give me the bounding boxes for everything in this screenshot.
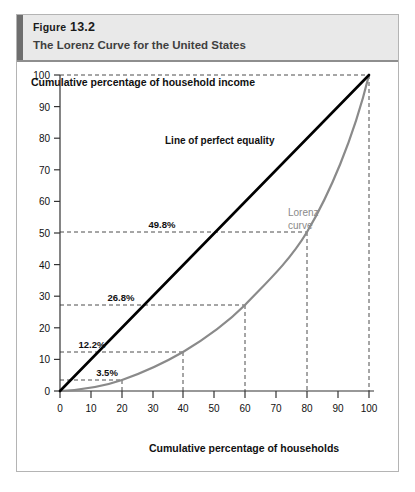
annotation-label-268: 26.8% (108, 292, 135, 303)
x-tick-label: 60 (239, 403, 251, 414)
figure-number-prefix: Figure (33, 21, 66, 33)
x-tick-label: 100 (361, 403, 378, 414)
x-axis-tick-labels: 0 10 20 30 40 50 60 70 80 90 100 (57, 403, 378, 414)
annotation-label-35: 3.5% (96, 367, 118, 378)
y-tick-label: 80 (39, 133, 51, 144)
x-tick-label: 70 (270, 403, 282, 414)
x-tick-label: 30 (147, 403, 159, 414)
perfect-equality-label: Line of perfect equality (165, 135, 275, 146)
annotation-labels: 49.8% 26.8% 12.2% 3.5% (79, 219, 176, 378)
lorenz-curve-plot: 100 90 80 70 60 50 40 30 20 10 0 (17, 62, 400, 472)
figure-number: Figure 13.2 (33, 20, 95, 34)
x-tick-label: 20 (116, 403, 128, 414)
y-tick-label: 60 (39, 196, 51, 207)
y-tick-label: 10 (39, 354, 51, 365)
figure-caption: The Lorenz Curve for the United States (33, 39, 246, 51)
y-tick-label: 40 (39, 260, 51, 271)
lorenz-curve-label-line2: curve (288, 220, 313, 231)
figure-container: Figure 13.2 The Lorenz Curve for the Uni… (16, 14, 399, 472)
lorenz-curve-label-line1: Lorenz (288, 207, 319, 218)
x-tick-label: 50 (208, 403, 220, 414)
x-tick-label: 80 (301, 403, 313, 414)
y-tick-label: 100 (33, 70, 50, 81)
annotation-label-498: 49.8% (149, 219, 176, 230)
y-tick-label: 50 (39, 228, 51, 239)
y-axis-tick-labels: 100 90 80 70 60 50 40 30 20 10 0 (33, 70, 50, 397)
annotation-label-122: 12.2% (79, 339, 106, 350)
chart-area: Cumulative percentage of household incom… (17, 62, 398, 472)
y-tick-label: 0 (44, 386, 50, 397)
y-tick-label: 70 (39, 165, 51, 176)
x-tick-label: 40 (177, 403, 189, 414)
x-tick-label: 90 (332, 403, 344, 414)
perfect-equality-line (60, 75, 369, 391)
header-accent-bar (17, 15, 23, 60)
y-tick-label: 30 (39, 291, 51, 302)
figure-number-value: 13.2 (70, 20, 95, 34)
y-tick-label: 90 (39, 102, 51, 113)
y-tick-label: 20 (39, 323, 51, 334)
figure-header: Figure 13.2 The Lorenz Curve for the Uni… (17, 15, 398, 62)
x-axis-ticks (60, 391, 369, 398)
x-tick-label: 10 (85, 403, 97, 414)
x-tick-label: 0 (57, 403, 63, 414)
y-axis-ticks (54, 75, 60, 391)
